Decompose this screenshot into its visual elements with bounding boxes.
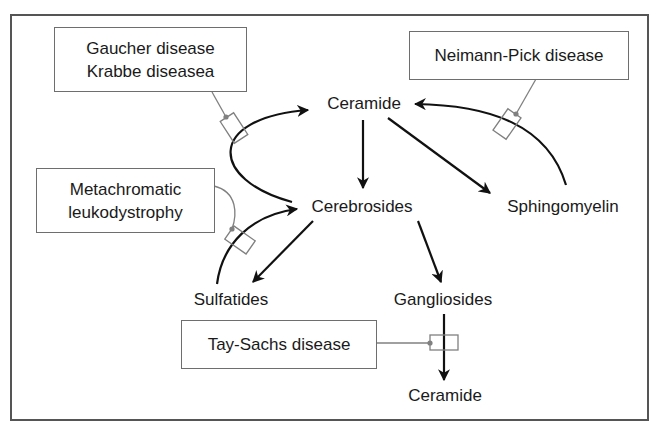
arrow-sulfatides-to-cerebrosides [217, 209, 297, 284]
node-sulfatides: Sulfatides [194, 290, 269, 310]
arrow-cerebrosides-to-ceramide [231, 110, 308, 202]
tay-sachs-block-marker [376, 335, 458, 350]
metachromatic-block-marker [214, 186, 255, 254]
arrow-cerebrosides-to-sulfatides [253, 221, 313, 282]
disease-label: leukodystrophy [68, 201, 182, 224]
gaucher-krabbe-disease-box: Gaucher disease Krabbe diseasea [54, 27, 247, 92]
node-gangliosides: Gangliosides [394, 290, 492, 310]
disease-label: Krabbe diseasea [87, 60, 215, 83]
tay-sachs-disease-box: Tay-Sachs disease [181, 320, 377, 369]
arrow-sphingomyelin-to-ceramide [415, 104, 566, 185]
disease-label: Neimann-Pick disease [434, 44, 603, 67]
arrow-cerebrosides-to-gangliosides [418, 221, 441, 282]
node-ceramide-bottom: Ceramide [408, 386, 482, 406]
arrow-ceramide-to-sphingomyelin [388, 118, 490, 193]
neimann-pick-disease-box: Neimann-Pick disease [409, 31, 629, 80]
gaucher-krabbe-block-marker [212, 92, 248, 143]
node-sphingomyelin: Sphingomyelin [507, 197, 619, 217]
disease-label: Gaucher disease [86, 37, 215, 60]
node-cerebrosides: Cerebrosides [311, 197, 412, 217]
neimann-pick-block-marker [493, 79, 536, 139]
disease-label: Tay-Sachs disease [208, 333, 351, 356]
metachromatic-leukodystrophy-box: Metachromatic leukodystrophy [36, 168, 215, 233]
node-ceramide-top: Ceramide [327, 94, 401, 114]
sphingolipid-pathway-diagram: Gaucher disease Krabbe diseasea Neimann-… [0, 0, 660, 435]
disease-label: Metachromatic [70, 178, 181, 201]
